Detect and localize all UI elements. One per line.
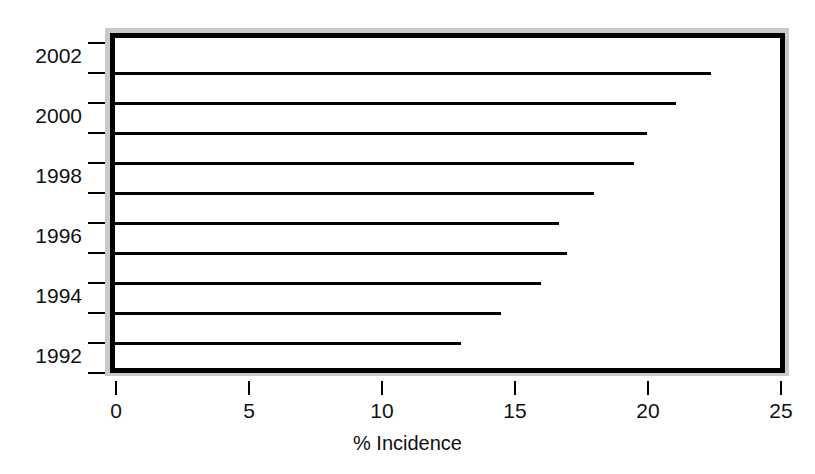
- bar-2002: [115, 72, 711, 75]
- x-tick-label-5: 5: [243, 399, 255, 423]
- x-tick: [514, 381, 516, 395]
- x-tick: [647, 381, 649, 395]
- bar-2000: [115, 132, 647, 135]
- bar-1993: [115, 342, 461, 345]
- y-tick-label-1996: 1996: [35, 224, 82, 248]
- x-tick-label-10: 10: [370, 399, 393, 423]
- x-axis-title: % Incidence: [0, 432, 815, 455]
- y-tick-label-2000: 2000: [35, 104, 82, 128]
- plot-frame: [110, 33, 785, 373]
- chart-figure: 199219941996199820002002 0510152025 % In…: [0, 0, 815, 474]
- y-axis-labels: 199219941996199820002002: [0, 0, 88, 474]
- x-tick: [248, 381, 250, 395]
- plot-area: [115, 38, 780, 368]
- x-tick-label-25: 25: [769, 399, 792, 423]
- y-tick-label-1992: 1992: [35, 344, 82, 368]
- x-tick-label-20: 20: [636, 399, 659, 423]
- bar-1998: [115, 192, 594, 195]
- bar-1996: [115, 252, 567, 255]
- bar-1997: [115, 222, 559, 225]
- x-tick: [780, 381, 782, 395]
- bar-2001: [115, 102, 676, 105]
- bar-1999: [115, 162, 634, 165]
- y-tick-label-2002: 2002: [35, 44, 82, 68]
- y-tick-label-1994: 1994: [35, 284, 82, 308]
- x-tick-label-0: 0: [110, 399, 122, 423]
- bar-1995: [115, 282, 541, 285]
- y-tick-label-1998: 1998: [35, 164, 82, 188]
- x-tick-label-15: 15: [503, 399, 526, 423]
- bar-1994: [115, 312, 501, 315]
- x-tick: [381, 381, 383, 395]
- x-tick: [115, 381, 117, 395]
